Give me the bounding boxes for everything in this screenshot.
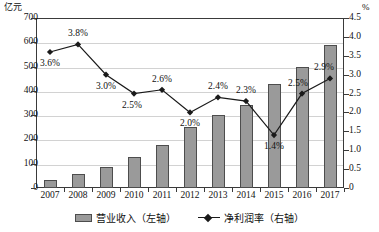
right-axis-tick-label: 4.5 xyxy=(349,13,379,23)
x-axis-tick-label: 2017 xyxy=(313,190,347,201)
legend-item-revenue[interactable]: 营业收入（左轴） xyxy=(75,210,176,225)
right-axis-tick-label: 0 xyxy=(349,183,379,193)
data-point-label: 2.5% xyxy=(122,100,142,110)
chart-legend: 营业收入（左轴） 净利润率（右轴） xyxy=(0,210,379,225)
chart-container: 亿元 % 0100200300400500600700 00.51.01.52.… xyxy=(0,0,379,232)
data-point-marker[interactable] xyxy=(47,49,53,55)
right-axis-tick-label: 3.5 xyxy=(349,51,379,61)
right-axis-tick-label: 1.5 xyxy=(349,127,379,137)
right-axis-tickmark xyxy=(344,75,349,76)
data-point-marker[interactable] xyxy=(327,75,333,81)
data-point-label: 2.4% xyxy=(208,81,228,91)
right-axis-tick-label: 0.5 xyxy=(349,164,379,174)
right-axis-tickmark xyxy=(344,150,349,151)
right-axis-tickmark xyxy=(344,56,349,57)
right-axis-tick-label: 3.0 xyxy=(349,70,379,80)
data-point-label: 3.6% xyxy=(40,58,60,68)
legend-item-net-margin[interactable]: 净利润率（右轴） xyxy=(198,210,304,225)
legend-label-net-margin: 净利润率（右轴） xyxy=(224,210,304,225)
right-axis-tickmark xyxy=(344,94,349,95)
right-axis-tick-label: 4.0 xyxy=(349,32,379,42)
right-axis-tickmark xyxy=(344,169,349,170)
data-point-label: 1.4% xyxy=(264,141,284,151)
right-axis-tickmark xyxy=(344,131,349,132)
data-point-label: 3.0% xyxy=(96,81,116,91)
right-axis-tickmark xyxy=(344,112,349,113)
right-axis-tick-label: 2.0 xyxy=(349,108,379,118)
right-axis-tick-label: 1.0 xyxy=(349,145,379,155)
data-point-label: 2.5% xyxy=(288,78,308,88)
left-axis-tickmark xyxy=(31,188,36,189)
left-axis-unit-label: 亿元 xyxy=(4,2,22,12)
right-axis-tick-label: 2.5 xyxy=(349,89,379,99)
data-point-label: 2.0% xyxy=(180,118,200,128)
right-axis-tickmark xyxy=(344,37,349,38)
line-series-net-margin xyxy=(36,18,344,188)
line-diamond-swatch-icon xyxy=(198,213,220,222)
right-axis-unit-label: % xyxy=(362,2,370,12)
data-point-label: 2.9% xyxy=(314,62,334,72)
right-axis-tickmark xyxy=(344,18,349,19)
data-point-label: 3.8% xyxy=(68,28,88,38)
data-point-label: 2.6% xyxy=(152,74,172,84)
data-point-label: 2.3% xyxy=(236,85,256,95)
bar-swatch-icon xyxy=(75,214,92,222)
x-axis-tickmark xyxy=(344,188,345,192)
legend-label-revenue: 营业收入（左轴） xyxy=(96,210,176,225)
data-point-marker[interactable] xyxy=(215,94,221,100)
